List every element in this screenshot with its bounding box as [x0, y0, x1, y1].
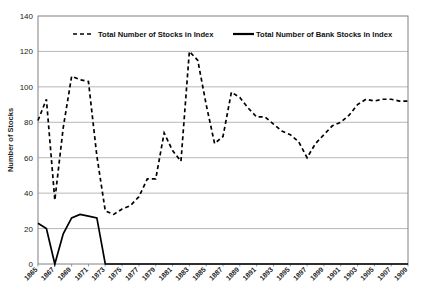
- x-axis-tick-labels: 1865186718691871187318751877187918811883…: [23, 266, 409, 282]
- x-tick-label: 1879: [140, 266, 156, 282]
- legend-label-bank-stocks: Total Number of Bank Stocks in Index: [256, 30, 393, 39]
- y-tick-label: 60: [24, 154, 33, 163]
- x-tick-label: 1901: [325, 266, 341, 282]
- x-tick-label: 1887: [208, 266, 224, 282]
- x-tick-label: 1873: [90, 266, 106, 282]
- x-tick-label: 1897: [292, 266, 308, 282]
- x-tick-label: 1881: [157, 266, 173, 282]
- y-axis-tick-labels: 020406080100120140: [20, 12, 34, 269]
- series-line-bank-stocks: [38, 214, 408, 264]
- legend-label-total-stocks: Total Number of Stocks in Index: [98, 30, 214, 39]
- x-tick-label: 1885: [191, 266, 207, 282]
- x-tick-label: 1893: [258, 266, 274, 282]
- x-tick-label: 1867: [40, 266, 56, 282]
- x-tick-label: 1883: [174, 266, 190, 282]
- chart-legend: Total Number of Stocks in Index Total Nu…: [73, 30, 393, 39]
- plot-area-border: [38, 16, 408, 264]
- x-tick-label: 1871: [73, 266, 89, 282]
- y-tick-label: 140: [20, 12, 34, 21]
- y-tick-label: 20: [24, 225, 33, 234]
- chart-container: 020406080100120140 186518671869187118731…: [0, 0, 424, 299]
- x-tick-label: 1891: [241, 266, 257, 282]
- line-chart: 020406080100120140 186518671869187118731…: [0, 0, 424, 299]
- plot-gridlines: [38, 51, 408, 266]
- series-line-total-stocks: [38, 51, 408, 214]
- x-tick-label: 1889: [225, 266, 241, 282]
- x-tick-label: 1909: [393, 266, 409, 282]
- x-tick-label: 1905: [359, 266, 375, 282]
- x-tick-label: 1899: [309, 266, 325, 282]
- x-tick-label: 1865: [23, 266, 39, 282]
- x-tick-label: 1903: [342, 266, 358, 282]
- x-tick-label: 1895: [275, 266, 291, 282]
- y-tick-label: 40: [24, 189, 33, 198]
- x-tick-label: 1875: [107, 266, 123, 282]
- x-tick-label: 1869: [56, 266, 72, 282]
- x-tick-label: 1877: [124, 266, 140, 282]
- y-tick-label: 100: [20, 83, 34, 92]
- x-tick-label: 1907: [376, 266, 392, 282]
- y-tick-label: 120: [20, 47, 34, 56]
- y-axis-title: Number of Stocks: [6, 108, 15, 172]
- y-tick-label: 80: [24, 118, 33, 127]
